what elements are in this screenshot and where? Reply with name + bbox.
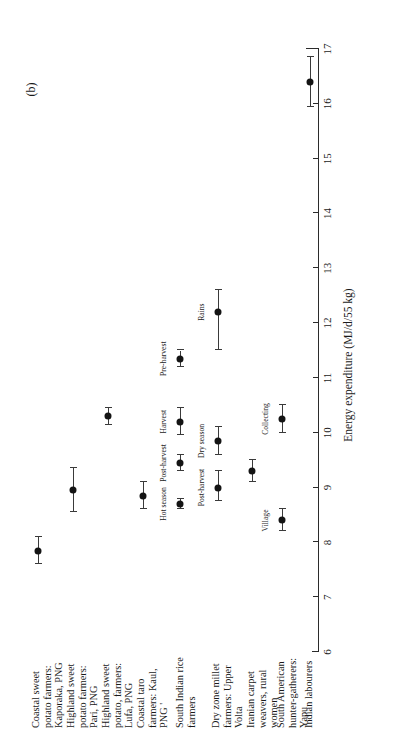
error-bar-cap-low xyxy=(177,508,184,509)
error-bar-cap-high xyxy=(177,454,184,455)
category-label: Coastal taro farmers: Kaul, PNG ' xyxy=(135,654,170,728)
data-point-marker xyxy=(177,459,184,466)
error-bar-cap-low xyxy=(307,106,314,107)
error-bar-cap-high xyxy=(249,459,256,460)
error-bar-cap-high xyxy=(70,467,77,468)
axis-tick xyxy=(313,377,318,378)
axis-tick xyxy=(313,487,318,488)
data-point-marker xyxy=(249,468,256,475)
point-annotation: Collecting xyxy=(262,403,270,435)
axis-tick-label: 8 xyxy=(322,540,333,546)
axis-tick xyxy=(313,48,318,49)
data-point-marker xyxy=(177,355,184,362)
data-point-marker xyxy=(307,78,314,85)
error-bar-cap-low xyxy=(177,366,184,367)
axis-tick-label: 16 xyxy=(322,98,333,109)
axis-tick xyxy=(313,541,318,542)
panel-label: (b) xyxy=(24,83,39,97)
axis-tick xyxy=(313,596,318,597)
error-bar-cap-low xyxy=(140,508,147,509)
axis-tick xyxy=(313,212,318,213)
figure-rotor: 67891011121314151617Energy expenditure (… xyxy=(0,0,407,730)
category-label: Indian labourers xyxy=(303,654,315,728)
error-bar-cap-low xyxy=(105,424,112,425)
error-bar-cap-high xyxy=(177,407,184,408)
error-bar-cap-low xyxy=(35,563,42,564)
error-bar-cap-low xyxy=(177,434,184,435)
axis-tick-label: 9 xyxy=(322,485,333,491)
axis-tick-label: 17 xyxy=(322,44,333,55)
axis-tick-label: 6 xyxy=(322,649,333,655)
data-point-marker xyxy=(279,517,286,524)
error-bar-cap-low xyxy=(215,350,222,351)
error-bar-cap-high xyxy=(307,56,314,57)
point-annotation: Village xyxy=(262,509,270,531)
error-bar-cap-low xyxy=(177,470,184,471)
data-point-marker xyxy=(215,437,222,444)
error-bar-cap-low xyxy=(279,432,286,433)
point-annotation: Harvest xyxy=(160,410,168,434)
error-bar xyxy=(218,290,219,350)
axis-tick-label: 11 xyxy=(322,373,333,384)
data-point-marker xyxy=(215,309,222,316)
axis-tick-label: 13 xyxy=(322,263,333,274)
point-annotation: Post-harvest xyxy=(198,469,206,507)
error-bar-cap-low xyxy=(215,454,222,455)
category-label: Highland sweet potato farmers: Pari, PNG xyxy=(65,654,100,728)
x-axis-title: Energy expenditure (MJ/d/55 kg) xyxy=(342,0,354,730)
axis-tick-label: 15 xyxy=(322,153,333,164)
error-bar-cap-high xyxy=(177,350,184,351)
axis-tick-label: 10 xyxy=(322,427,333,438)
data-point-marker xyxy=(105,413,112,420)
error-bar-cap-high xyxy=(279,404,286,405)
point-annotation: Post-harvest xyxy=(160,444,168,482)
error-bar-cap-high xyxy=(215,470,222,471)
axis-tick xyxy=(313,651,318,652)
category-label: Highland sweet potato, farmers: Lufa, PN… xyxy=(100,654,135,728)
category-label: South Indian rice farmers xyxy=(174,654,197,728)
error-bar-cap-high xyxy=(140,481,147,482)
data-point-marker xyxy=(70,487,77,494)
error-bar-cap-low xyxy=(215,500,222,501)
data-point-marker xyxy=(177,418,184,425)
data-point-marker xyxy=(35,547,42,554)
error-bar-cap-low xyxy=(70,511,77,512)
axis-tick xyxy=(313,322,318,323)
error-bar-cap-high xyxy=(177,498,184,499)
data-point-marker xyxy=(177,501,184,508)
axis-tick-label: 7 xyxy=(322,594,333,600)
x-axis-line xyxy=(318,49,319,652)
point-annotation: Pre-harvest xyxy=(160,341,168,376)
point-annotation: Dry season xyxy=(198,424,206,458)
error-bar-cap-high xyxy=(35,536,42,537)
point-annotation: Hot season xyxy=(160,487,168,521)
error-bar-cap-high xyxy=(215,426,222,427)
axis-tick xyxy=(313,432,318,433)
error-bar-cap-high xyxy=(279,508,286,509)
axis-tick xyxy=(313,267,318,268)
axis-tick-label: 14 xyxy=(322,208,333,219)
error-bar-cap-high xyxy=(105,407,112,408)
data-point-marker xyxy=(279,416,286,423)
category-label: Dry zone millet farmers: Upper Volta xyxy=(210,654,245,728)
axis-tick xyxy=(313,103,318,104)
axis-tick-label: 12 xyxy=(322,318,333,329)
error-bar-cap-low xyxy=(279,530,286,531)
category-label: Coastal sweet potato farmers: Kaporaka, … xyxy=(30,654,65,728)
error-bar-cap-low xyxy=(249,481,256,482)
data-point-marker xyxy=(140,492,147,499)
data-point-marker xyxy=(215,484,222,491)
axis-tick xyxy=(313,158,318,159)
point-annotation: Rains xyxy=(198,303,206,320)
error-bar-cap-high xyxy=(215,289,222,290)
chart-plot-area: 67891011121314151617Energy expenditure (… xyxy=(0,0,407,730)
